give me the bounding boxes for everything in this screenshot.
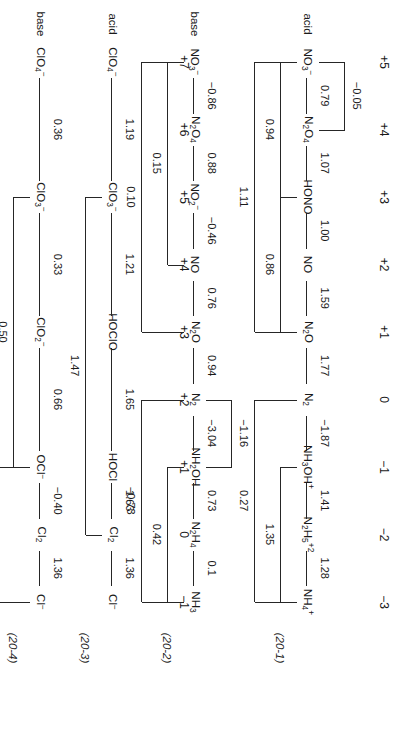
step-potential: −0.86	[206, 82, 217, 110]
figure-label: (20-2)	[160, 633, 172, 664]
step-potential: 0.33	[52, 254, 63, 275]
bracket-span	[231, 400, 232, 468]
species-label: Cl−	[34, 594, 46, 610]
figure-label: (20-1)	[273, 633, 285, 664]
step-connector	[193, 213, 194, 249]
step-potential: 0.88	[206, 153, 217, 174]
step-connector	[111, 483, 112, 519]
step-potential: 1.21	[124, 254, 135, 275]
row-label-acid: acid	[301, 13, 313, 34]
step-connector	[193, 551, 194, 587]
species-label: HOCl	[106, 453, 118, 482]
step-connector	[193, 281, 194, 317]
step-connector	[306, 146, 307, 182]
step-potential: −0.46	[206, 217, 217, 245]
species-label: NH3OH+	[300, 445, 314, 489]
species-label: ClO4−	[33, 47, 47, 77]
row-label-acid: acid	[106, 13, 118, 34]
bracket-leg	[255, 332, 297, 333]
figure-label: (20-3)	[78, 633, 90, 664]
bracket-leg	[281, 197, 297, 198]
bracket-leg	[0, 602, 30, 603]
bracket-leg	[14, 197, 30, 198]
bracket-potential: 0.27	[238, 490, 249, 511]
row-label-base: base	[188, 12, 200, 37]
step-potential: −3.04	[206, 419, 217, 447]
step-potential: 1.59	[319, 288, 330, 309]
step-connector	[193, 146, 194, 182]
step-connector	[306, 213, 307, 249]
species-label: OCl−	[34, 454, 46, 479]
figure-label: (20-4)	[6, 633, 18, 664]
species-label: NH2OH	[187, 448, 200, 487]
bracket-potential: 1.11	[238, 187, 249, 208]
species-label: N2O	[300, 321, 313, 343]
bracket-potential: 1.35	[264, 524, 275, 545]
oxidation-state-label: +5	[378, 55, 390, 69]
bracket-span	[280, 467, 281, 602]
bracket-leg	[0, 467, 30, 468]
step-connector	[39, 213, 40, 316]
bracket-leg	[86, 197, 102, 198]
step-potential: 1.00	[319, 220, 330, 241]
bracket-leg	[168, 467, 184, 468]
bracket-span	[167, 467, 168, 602]
bracket-potential: 0.94	[264, 119, 275, 140]
species-label: ClO2−	[33, 317, 47, 347]
species-label: N2H5+2	[300, 517, 314, 553]
step-connector	[306, 78, 307, 114]
bracket-leg	[142, 400, 184, 401]
bracket-span	[280, 62, 281, 197]
step-potential: 0.36	[52, 119, 63, 140]
oxidation-state-label: +4	[378, 123, 390, 137]
species-label: Cl2	[33, 527, 46, 543]
bracket-potential: 0.15	[151, 153, 162, 174]
bracket-potential: 0.86	[264, 254, 275, 275]
step-connector	[306, 551, 307, 587]
step-connector	[306, 348, 307, 384]
species-label: ClO4−	[105, 47, 119, 77]
bracket-span	[141, 62, 142, 332]
step-connector	[306, 483, 307, 519]
step-potential: 1.07	[319, 153, 330, 174]
oxidation-state-label: −3	[378, 595, 390, 609]
step-connector	[193, 78, 194, 114]
bracket-leg	[255, 400, 297, 401]
step-connector	[111, 78, 112, 181]
rotated-figure-wrapper: +5+4+3+2+10−1−2−3+7+6+5+4+3+2+10−1acidNO…	[0, 0, 412, 740]
species-label: N2O4	[300, 116, 313, 143]
bracket-span	[85, 197, 86, 535]
oxidation-state-label: +3	[378, 190, 390, 204]
bracket-leg	[255, 602, 297, 603]
bracket-potential: −0.05	[351, 82, 362, 110]
species-label: Cl−	[106, 594, 118, 610]
bracket-leg	[319, 62, 345, 63]
bracket-leg	[206, 467, 232, 468]
step-potential: 0.76	[206, 288, 217, 309]
bracket-span	[167, 62, 168, 265]
oxidation-state-label: +2	[378, 258, 390, 272]
bracket-leg	[319, 130, 345, 131]
oxidation-state-label: −2	[378, 528, 390, 542]
species-label: Cl2	[105, 527, 118, 543]
bracket-potential: 1.47	[69, 355, 80, 376]
step-potential: 1.63	[124, 490, 135, 511]
step-connector	[39, 348, 40, 451]
step-potential: 1.65	[124, 389, 135, 410]
oxidation-state-label: −1	[378, 460, 390, 474]
step-connector	[193, 416, 194, 452]
step-connector	[39, 78, 40, 181]
step-potential: 1.77	[319, 355, 330, 376]
species-label: NH3	[187, 591, 200, 613]
step-connector	[306, 416, 307, 452]
step-potential: 0.73	[206, 490, 217, 511]
step-connector	[111, 348, 112, 451]
bracket-leg	[142, 332, 184, 333]
species-label: NO	[301, 256, 313, 273]
step-potential: 0.1	[206, 561, 217, 576]
bracket-potential: 0.50	[0, 321, 8, 342]
species-label: NO	[188, 256, 200, 273]
bracket-span	[280, 197, 281, 332]
bracket-span	[254, 400, 255, 603]
species-label: NO3−	[187, 48, 201, 75]
